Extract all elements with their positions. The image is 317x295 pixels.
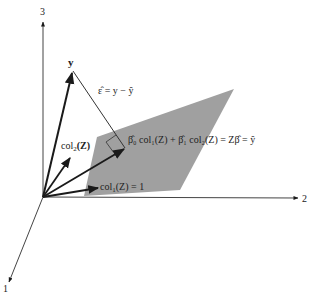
axis-1-label: 1 (3, 283, 8, 294)
col2-arg: (Z) (77, 140, 90, 152)
axis-2 (43, 197, 298, 198)
axis-1 (9, 197, 43, 282)
col2-text: col (61, 140, 73, 151)
y-label: y (68, 56, 74, 68)
residual-label: ε̂ = y − ŷ (98, 85, 133, 96)
axis-2-label: 2 (302, 193, 307, 204)
col1-arg: (Z) = 1 (116, 181, 144, 193)
col2-label: col2(Z) (61, 140, 90, 153)
fitted-label: β̂₀ col₁(Z) + β̂₁ col₂(Z) = Zβ̂ = ŷ (128, 134, 255, 146)
col1-text: col (100, 181, 112, 192)
regression-geometry-diagram: 3 2 1 y ε̂ = y − ŷ col2(Z) col1(Z) = 1 β… (0, 0, 317, 295)
y-vector (43, 73, 72, 197)
axis-3-label: 3 (40, 6, 45, 17)
